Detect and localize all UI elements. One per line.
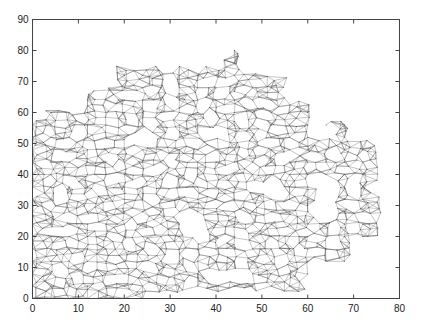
mesh-node	[339, 257, 340, 258]
mesh-node	[297, 106, 298, 107]
mesh-node	[176, 140, 177, 141]
mesh-node	[271, 174, 272, 175]
mesh-node	[210, 127, 211, 128]
mesh-node	[156, 113, 157, 114]
mesh-node	[304, 139, 305, 140]
mesh-node	[356, 160, 357, 161]
x-tick-label: 40	[210, 303, 222, 314]
mesh-node	[124, 236, 125, 237]
mesh-node	[344, 159, 345, 160]
mesh-node	[234, 149, 235, 150]
mesh-node	[271, 224, 272, 225]
mesh-node	[58, 110, 59, 111]
mesh-node	[144, 126, 145, 127]
mesh-node	[347, 195, 348, 196]
mesh-node	[216, 262, 217, 263]
mesh-node	[367, 169, 368, 170]
mesh-node	[57, 255, 58, 256]
x-tick-label: 30	[165, 303, 177, 314]
mesh-node	[44, 174, 45, 175]
mesh-node	[198, 243, 199, 244]
mesh-node	[216, 75, 217, 76]
mesh-node	[294, 169, 295, 170]
mesh-node	[320, 229, 321, 230]
mesh-node	[122, 220, 123, 221]
mesh-node	[271, 137, 272, 138]
mesh-node	[175, 147, 176, 148]
mesh-node	[279, 248, 280, 249]
mesh-node	[289, 199, 290, 200]
mesh-node	[258, 97, 259, 98]
mesh-node	[370, 159, 371, 160]
mesh-node	[179, 263, 180, 264]
mesh-node	[229, 288, 230, 289]
mesh-node	[276, 85, 277, 86]
mesh-node	[46, 256, 47, 257]
mesh-node	[307, 186, 308, 187]
mesh-node	[188, 202, 189, 203]
mesh-node	[124, 203, 125, 204]
mesh-node	[246, 182, 247, 183]
mesh-node	[179, 199, 180, 200]
mesh-node	[144, 210, 145, 211]
mesh-node	[48, 235, 49, 236]
mesh-node	[285, 125, 286, 126]
mesh-node	[179, 174, 180, 175]
mesh-node	[225, 165, 226, 166]
y-tick-label: 60	[17, 107, 29, 118]
mesh-node	[124, 149, 125, 150]
mesh-node	[238, 56, 239, 57]
mesh-node	[309, 117, 310, 118]
mesh-node	[278, 92, 279, 93]
mesh-node	[103, 202, 104, 203]
mesh-node	[283, 87, 284, 88]
mesh-node	[117, 287, 118, 288]
mesh-node	[306, 241, 307, 242]
y-tick-label: 50	[17, 138, 29, 149]
mesh-node	[289, 149, 290, 150]
mesh-node	[197, 277, 198, 278]
mesh-node	[124, 162, 125, 163]
mesh-node	[187, 162, 188, 163]
mesh-node	[44, 193, 45, 194]
mesh-node	[124, 261, 125, 262]
mesh-node	[71, 278, 72, 279]
mesh-node	[329, 138, 330, 139]
mesh-node	[307, 248, 308, 249]
y-tick-label: 0	[23, 293, 29, 304]
mesh-node	[142, 108, 143, 109]
mesh-node	[50, 162, 51, 163]
mesh-node	[267, 92, 268, 93]
mesh-node	[50, 137, 51, 138]
mesh-node	[247, 283, 248, 284]
mesh-node	[260, 243, 261, 244]
mesh-node	[69, 261, 70, 262]
mesh-node	[254, 283, 255, 284]
mesh-node	[252, 199, 253, 200]
mesh-node	[58, 236, 59, 237]
mesh-node	[288, 133, 289, 134]
mesh-node	[63, 288, 64, 289]
mesh-plot: 01020304050607080 0102030405060708090	[0, 0, 421, 327]
mesh-node	[88, 244, 89, 245]
mesh-node	[179, 261, 180, 262]
mesh-node	[307, 224, 308, 225]
mesh-node	[249, 213, 250, 214]
mesh-node	[197, 248, 198, 249]
mesh-node	[234, 124, 235, 125]
mesh-node	[78, 228, 79, 229]
mesh-node	[145, 291, 146, 292]
mesh-node	[66, 112, 67, 113]
mesh-node	[197, 199, 198, 200]
mesh-node	[95, 203, 96, 204]
mesh-node	[108, 152, 109, 153]
mesh-node	[136, 113, 137, 114]
mesh-node	[163, 208, 164, 209]
mesh-node	[337, 165, 338, 166]
mesh-node	[304, 237, 305, 238]
mesh-node	[159, 291, 160, 292]
mesh-node	[138, 278, 139, 279]
mesh-node	[206, 202, 207, 203]
y-tick-label: 10	[17, 262, 29, 273]
mesh-node	[135, 101, 136, 102]
